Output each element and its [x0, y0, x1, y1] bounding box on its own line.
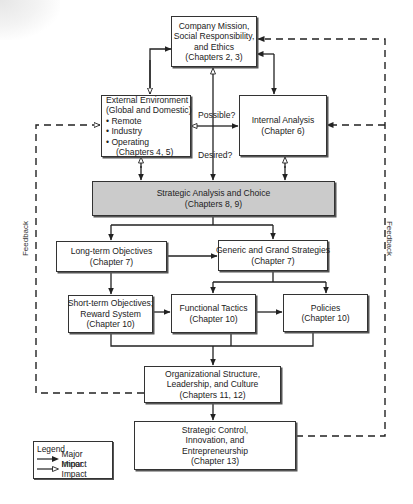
- box-text: (Global and Domestic): [106, 105, 192, 116]
- generic-grand-strategies-box: Generic and Grand Strategies (Chapter 7): [218, 240, 328, 271]
- box-text: Entrepreneurship: [182, 446, 248, 457]
- box-text: Functional Tactics: [179, 303, 247, 314]
- box-text: Social Responsibility,: [174, 31, 255, 42]
- external-environment-box: External Environment (Global and Domesti…: [101, 95, 191, 157]
- box-text: Strategic Analysis and Choice: [157, 188, 271, 199]
- feedback-right-label: Feedback: [385, 221, 394, 256]
- box-text: • Operating: [106, 137, 149, 148]
- box-text: (Chapter 13): [191, 456, 239, 467]
- functional-tactics-box: Functional Tactics (Chapter 10): [171, 294, 256, 333]
- box-text: (Chapter 7): [251, 256, 294, 267]
- strategic-analysis-box: Strategic Analysis and Choice (Chapters …: [92, 181, 335, 216]
- possible-label: Possible?: [198, 110, 235, 120]
- short-term-objectives-box: Short-term Objectives; Reward System (Ch…: [68, 295, 153, 333]
- box-text: Long-term Objectives: [71, 246, 153, 257]
- box-text: Leadership, and Culture: [167, 379, 259, 390]
- box-text: (Chapters 4, 5): [106, 147, 173, 158]
- legend: Legend Major Impact Minor Impact: [33, 441, 113, 479]
- organizational-structure-box: Organizational Structure, Leadership, an…: [144, 366, 281, 403]
- hollow-arrow-icon: [37, 466, 59, 472]
- long-term-objectives-box: Long-term Objectives (Chapter 7): [56, 241, 167, 272]
- box-text: (Chapters 2, 3): [185, 52, 242, 63]
- box-text: (Chapters 8, 9): [185, 199, 242, 210]
- legend-minor: Minor Impact: [37, 464, 109, 474]
- desired-label: Desired?: [198, 150, 232, 160]
- mission-box: Company Mission, Social Responsibility, …: [171, 16, 257, 67]
- box-text: and Ethics: [194, 42, 234, 53]
- box-text: Reward System: [80, 309, 141, 320]
- box-text: Company Mission,: [179, 21, 250, 32]
- box-text: • Industry: [106, 126, 142, 137]
- box-text: Generic and Grand Strategies: [216, 245, 330, 256]
- box-text: Short-term Objectives;: [68, 298, 153, 309]
- strategic-control-box: Strategic Control, Innovation, and Entre…: [134, 421, 296, 470]
- legend-minor-label: Minor Impact: [62, 459, 109, 479]
- box-text: (Chapter 7): [90, 257, 133, 268]
- box-text: (Chapter 10): [301, 313, 349, 324]
- mission-external-link: [150, 49, 171, 94]
- box-text: (Chapters 11, 12): [179, 390, 245, 401]
- filled-arrow-icon: [37, 456, 59, 462]
- box-text: Policies: [311, 303, 341, 314]
- box-text: • Remote: [106, 116, 142, 127]
- box-text: (Chapter 10): [189, 314, 237, 325]
- box-text: (Chapter 6): [261, 126, 304, 137]
- policies-box: Policies (Chapter 10): [283, 294, 368, 332]
- box-text: Innovation, and: [186, 435, 245, 446]
- box-text: Strategic Control,: [182, 425, 248, 436]
- box-text: (Chapter 10): [86, 319, 134, 330]
- box-text: Internal Analysis: [252, 115, 315, 126]
- feedback-left-label: Feedback: [21, 221, 30, 256]
- box-text: Organizational Structure,: [165, 369, 260, 380]
- box-text: External Environment: [106, 95, 188, 106]
- internal-analysis-box: Internal Analysis (Chapter 6): [239, 95, 327, 156]
